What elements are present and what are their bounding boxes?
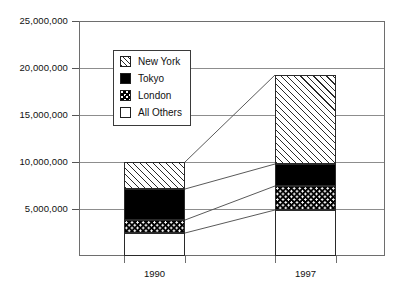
legend-swatch-new-york-icon — [120, 56, 131, 67]
x-axis-label-1997: 1997 — [275, 268, 336, 279]
bar-1990[interactable] — [124, 162, 185, 256]
legend-item-all-others[interactable]: All Others — [114, 104, 190, 121]
legend-swatch-london-icon — [120, 90, 131, 101]
legend-label-tokyo: Tokyo — [138, 73, 164, 84]
bar-1997-segment-tokyo[interactable] — [275, 164, 336, 186]
bar-1990-segment-london[interactable] — [124, 220, 185, 233]
bar-1997[interactable] — [275, 75, 336, 256]
bar-1997-segment-new-york[interactable] — [275, 75, 336, 164]
bar-1997-segment-london[interactable] — [275, 186, 336, 210]
legend-swatch-all-others-icon — [120, 107, 131, 118]
legend-label-all-others: All Others — [138, 107, 182, 118]
legend-label-new-york: New York — [138, 56, 180, 67]
chart-legend: New York Tokyo London All Others — [113, 50, 191, 126]
x-axis-label-1990: 1990 — [124, 268, 185, 279]
segment-connector-lines — [0, 0, 399, 293]
legend-swatch-tokyo-icon — [120, 73, 131, 84]
bar-1990-segment-all-others[interactable] — [124, 233, 185, 256]
legend-item-new-york[interactable]: New York — [114, 53, 190, 70]
chart-canvas: 25,000,000 20,000,000 15,000,000 10,000,… — [0, 0, 399, 293]
bar-1990-segment-tokyo[interactable] — [124, 189, 185, 220]
bar-1997-segment-all-others[interactable] — [275, 210, 336, 256]
bar-1990-segment-new-york[interactable] — [124, 162, 185, 189]
legend-label-london: London — [138, 90, 171, 101]
legend-item-tokyo[interactable]: Tokyo — [114, 70, 190, 87]
legend-item-london[interactable]: London — [114, 87, 190, 104]
